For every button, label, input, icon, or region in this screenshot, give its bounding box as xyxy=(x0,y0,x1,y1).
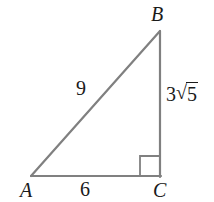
radical-coefficient: 3 xyxy=(166,83,176,105)
side-length-label-hypotenuse: 9 xyxy=(76,78,86,98)
geometry-figure: A B C 9 6 3√5 xyxy=(0,0,214,202)
vertex-label-c: C xyxy=(153,180,166,200)
vertex-label-a: A xyxy=(20,180,32,200)
side-length-label-vertical: 3√5 xyxy=(166,82,198,104)
right-angle-marker-icon xyxy=(140,156,160,176)
vertex-label-b: B xyxy=(151,4,163,24)
side-length-label-base: 6 xyxy=(80,179,90,199)
triangle-side-hypotenuse xyxy=(31,31,160,176)
radicand-value: 5 xyxy=(186,82,198,104)
